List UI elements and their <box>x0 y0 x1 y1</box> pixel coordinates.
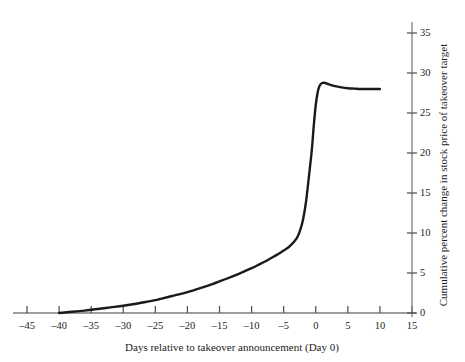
x-tick-label: 0 <box>313 320 318 332</box>
y-tick-label: 15 <box>420 187 431 199</box>
x-tick-label: –10 <box>244 320 260 332</box>
x-tick-label: 5 <box>345 320 350 332</box>
x-tick-label: –20 <box>180 320 196 332</box>
x-tick-label: –25 <box>147 320 163 332</box>
x-tick-label: –45 <box>19 320 35 332</box>
x-axis-title: Days relative to takeover announcement (… <box>125 341 339 353</box>
x-tick-label: –5 <box>278 320 289 332</box>
y-tick-label: 30 <box>420 67 431 79</box>
x-tick-label: –15 <box>212 320 228 332</box>
data-series-group <box>59 83 380 313</box>
y-tick-label: 20 <box>420 147 431 159</box>
x-tick-label: 10 <box>375 320 386 332</box>
x-tick-label: –30 <box>115 320 131 332</box>
y-tick-label: 35 <box>420 27 431 39</box>
y-tick-label: 10 <box>420 227 431 239</box>
x-tick-label: 15 <box>407 320 418 332</box>
x-tick-label: –35 <box>83 320 99 332</box>
y-tick-label: 25 <box>420 107 431 119</box>
y-axis-title: Cumulative percent change in stock price… <box>437 44 449 306</box>
chart-container: –45–40–35–30–25–20–15–10–5051015 0510152… <box>0 0 465 362</box>
x-tick-label: –40 <box>51 320 67 332</box>
y-tick-label: 0 <box>420 307 425 319</box>
y-axis <box>407 22 417 317</box>
series-line-0 <box>59 83 380 313</box>
y-tick-label: 5 <box>420 267 425 279</box>
chart-plot-area <box>0 0 465 362</box>
